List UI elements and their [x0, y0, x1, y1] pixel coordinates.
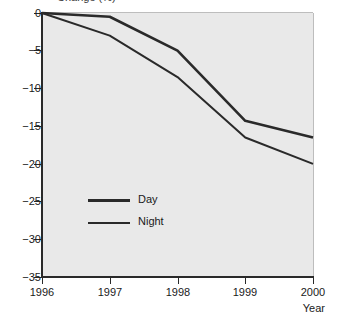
y-tick-label-7: −35 — [22, 272, 41, 283]
line-series-day — [42, 13, 313, 137]
clipped-y-axis-title-text: Change (%) — [57, 0, 116, 3]
x-axis-title: Year — [0, 303, 325, 314]
x-tick-label-3: 1999 — [225, 287, 265, 298]
x-tick-3 — [245, 277, 246, 284]
legend: Day Night — [88, 191, 208, 235]
y-tick-label-0: 0 — [35, 8, 41, 19]
y-tick-label-3: −15 — [22, 121, 41, 132]
series-lines — [42, 13, 313, 277]
legend-item-night: Night — [88, 213, 208, 235]
y-tick-label-1: −5 — [28, 45, 41, 56]
legend-swatch-day — [88, 199, 130, 202]
y-tick-label-2: −10 — [22, 83, 41, 94]
x-tick-1 — [110, 277, 111, 284]
clipped-y-axis-title: Change (%) — [0, 0, 339, 7]
legend-label-night: Night — [138, 215, 164, 228]
legend-label-day: Day — [138, 193, 158, 206]
legend-swatch-night — [88, 222, 130, 224]
line-series-night — [42, 13, 313, 164]
x-tick-label-1: 1997 — [90, 287, 130, 298]
y-tick-label-4: −20 — [22, 159, 41, 170]
x-tick-0 — [42, 277, 43, 284]
x-tick-label-4: 2000 — [293, 287, 333, 298]
plot-right-edge — [313, 13, 314, 277]
legend-item-day: Day — [88, 191, 208, 213]
x-tick-4 — [313, 277, 314, 284]
x-tick-label-0: 1996 — [22, 287, 62, 298]
x-tick-2 — [178, 277, 179, 284]
x-tick-label-2: 1998 — [158, 287, 198, 298]
chart-figure: Change (%) 0 −5 −10 −15 −20 −25 −30 −35 … — [0, 0, 339, 317]
y-tick-label-5: −25 — [22, 196, 41, 207]
y-tick-label-6: −30 — [22, 234, 41, 245]
